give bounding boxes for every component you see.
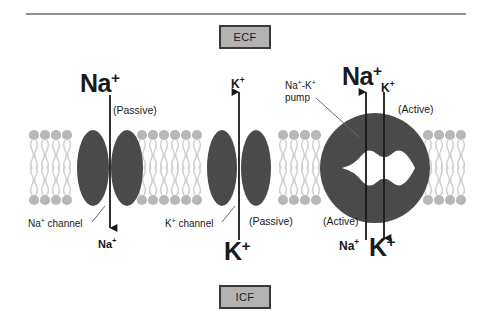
potassium-channel-structure-label: K+ channel [165, 218, 213, 229]
sodium-channel-leader-line [92, 206, 105, 222]
pump-sodium-symbol: Na [285, 80, 298, 91]
sodium-ion-charge: + [111, 69, 120, 86]
sodium-potassium-pump-protein [320, 113, 430, 223]
potassium-channel-top-ion: K+ [231, 76, 245, 90]
potassium-channel-leader-line [222, 206, 235, 222]
bilayer-segment-left [29, 130, 72, 205]
pump-bottom-sodium-symbol: Na [339, 239, 354, 253]
sodium-channel-bottom-ion: Na+ [98, 237, 117, 250]
potassium-ion-symbol-bottom: K [224, 237, 242, 265]
sodium-channel-structure-label: Na+ channel [28, 218, 83, 229]
sodium-ion-symbol: Na [80, 69, 111, 97]
sodium-channel-transport-note: (Passive) [113, 105, 157, 116]
pump-top-sodium-charge: + [373, 62, 382, 79]
pump-top-potassium-charge: + [390, 79, 395, 89]
pump-top-sodium-ion: Na+ [342, 63, 382, 89]
membrane-transport-diagram: ECF ICF Na+ (Passive) Na+ channel Na+ K+… [0, 0, 492, 322]
pump-top-potassium-ion: K+ [381, 80, 395, 94]
pump-top-potassium-symbol: K [381, 81, 390, 95]
potassium-channel-bottom-ion: K+ [224, 238, 250, 264]
sodium-channel-top-ion: Na+ [80, 70, 120, 96]
bilayer-segment-mid-left [137, 130, 202, 205]
pump-top-transport-note: (Active) [398, 104, 434, 115]
ecf-text: ECF [233, 31, 256, 43]
potassium-ion-charge-bottom: + [242, 237, 251, 254]
pump-bottom-potassium-charge: + [387, 233, 396, 250]
pump-name-separator: -K [302, 80, 312, 91]
sodium-channel-ion: Na [28, 218, 41, 229]
potassium-channel-ion: K [165, 218, 172, 229]
sodium-channel-word: channel [45, 218, 83, 229]
pump-name-line-1: Na+-K+ [285, 80, 316, 91]
pump-bottom-sodium-ion: Na+ [339, 238, 359, 252]
potassium-ion-charge: + [240, 75, 245, 85]
potassium-ion-symbol: K [231, 77, 240, 91]
potassium-channel-transport-note: (Passive) [249, 216, 293, 227]
ecf-compartment-label: ECF [219, 25, 271, 49]
icf-compartment-label: ICF [219, 285, 271, 309]
bilayer-segment-mid-right [278, 130, 321, 205]
pump-bottom-sodium-charge: + [354, 237, 359, 247]
pump-bottom-transport-note: (Active) [323, 216, 359, 227]
sodium-ion-symbol-bottom: Na [98, 238, 112, 250]
potassium-channel-word: channel [176, 218, 214, 229]
sodium-ion-charge-bottom: + [112, 236, 117, 245]
pump-potassium-charge: + [312, 79, 316, 86]
pump-top-sodium-symbol: Na [342, 62, 373, 90]
pump-name-line-2: pump [285, 93, 310, 103]
pump-bottom-potassium-ion: K+ [369, 234, 395, 260]
pump-bottom-potassium-symbol: K [369, 233, 387, 261]
icf-text: ICF [236, 291, 255, 303]
